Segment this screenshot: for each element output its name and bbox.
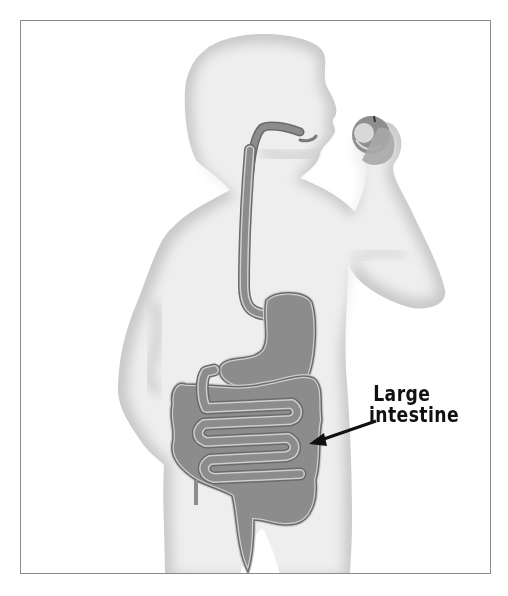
diagram-illustration [0,0,508,596]
label-line-1: Large [369,384,435,405]
large-intestine-label: Large intestine [369,384,435,426]
label-line-2: intestine [369,405,435,426]
